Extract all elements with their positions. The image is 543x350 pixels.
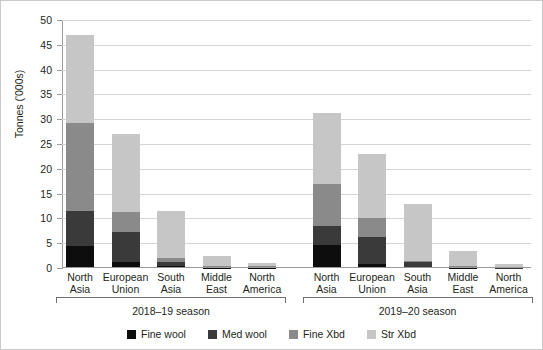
- gridline: [62, 94, 531, 95]
- y-axis-tick: [57, 94, 62, 95]
- y-axis-tick-label: 40: [40, 64, 52, 75]
- season-label: 2019–20 season: [303, 305, 533, 317]
- bar-stack[interactable]: [112, 134, 140, 268]
- legend-item[interactable]: Med wool: [208, 328, 267, 340]
- x-axis-line: [62, 267, 531, 268]
- bar-stack[interactable]: [66, 35, 94, 268]
- bar-stack[interactable]: [157, 211, 185, 268]
- bar-segment[interactable]: [449, 251, 477, 266]
- y-axis-tick: [57, 144, 62, 145]
- category-label-line: America: [232, 284, 292, 296]
- legend-label: Fine wool: [141, 328, 186, 340]
- bar-segment[interactable]: [313, 226, 341, 245]
- bar-segment[interactable]: [358, 154, 386, 218]
- y-axis-tick: [57, 243, 62, 244]
- gridline: [62, 45, 531, 46]
- y-axis-tick: [57, 194, 62, 195]
- bar-stack[interactable]: [449, 251, 477, 268]
- category-label-line: America: [479, 284, 539, 296]
- y-axis-tick-label: 35: [40, 89, 52, 100]
- bar-segment[interactable]: [112, 232, 140, 262]
- figure-border-top: [0, 0, 543, 1]
- chart-legend: Fine woolMed woolFine XbdStr Xbd: [0, 328, 543, 340]
- category-label-line: North: [232, 272, 292, 284]
- y-axis-tick: [57, 20, 62, 21]
- y-axis-tick-label: 5: [46, 238, 52, 249]
- legend-swatch-icon: [289, 330, 298, 339]
- legend-label: Med wool: [222, 328, 267, 340]
- bar-segment[interactable]: [404, 204, 432, 261]
- chart-figure: Tonnes ('000s) 05101520253035404550 Nort…: [0, 0, 543, 350]
- legend-swatch-icon: [127, 330, 136, 339]
- x-axis-category-label: NorthAmerica: [232, 272, 292, 295]
- season-bracket: [56, 297, 286, 303]
- y-axis-tick-label: 45: [40, 40, 52, 51]
- y-axis-tick-label: 20: [40, 164, 52, 175]
- bar-stack[interactable]: [404, 204, 432, 268]
- season-bracket: [303, 297, 533, 303]
- legend-label: Str Xbd: [381, 328, 416, 340]
- bar-segment[interactable]: [248, 263, 276, 266]
- y-axis-tick: [57, 218, 62, 219]
- legend-swatch-icon: [367, 330, 376, 339]
- bar-segment[interactable]: [313, 245, 341, 268]
- bar-segment[interactable]: [112, 134, 140, 212]
- y-axis-tick-label: 15: [40, 188, 52, 199]
- bar-segment[interactable]: [313, 113, 341, 184]
- legend-item[interactable]: Fine Xbd: [289, 328, 345, 340]
- y-axis-tick-label: 25: [40, 139, 52, 150]
- bar-segment[interactable]: [404, 262, 432, 266]
- bar-segment[interactable]: [157, 262, 185, 265]
- bar-segment[interactable]: [358, 218, 386, 237]
- legend-item[interactable]: Str Xbd: [367, 328, 416, 340]
- bar-segment[interactable]: [157, 258, 185, 262]
- y-axis-tick: [57, 169, 62, 170]
- y-axis-tick: [57, 45, 62, 46]
- bar-segment[interactable]: [66, 211, 94, 246]
- x-axis-category-label: NorthAmerica: [479, 272, 539, 295]
- season-label: 2018–19 season: [56, 305, 286, 317]
- y-axis-tick: [57, 119, 62, 120]
- y-axis-tick: [57, 70, 62, 71]
- bar-segment[interactable]: [157, 211, 185, 258]
- y-axis-tick-labels: 05101520253035404550: [0, 0, 52, 350]
- gridline: [62, 20, 531, 21]
- category-label-line: North: [479, 272, 539, 284]
- y-axis-tick-label: 10: [40, 213, 52, 224]
- bar-segment[interactable]: [203, 256, 231, 266]
- y-axis-tick-label: 50: [40, 15, 52, 26]
- bar-segment[interactable]: [358, 237, 386, 264]
- bar-segment[interactable]: [313, 184, 341, 226]
- legend-label: Fine Xbd: [303, 328, 345, 340]
- gridline: [62, 119, 531, 120]
- gridline: [62, 70, 531, 71]
- plot-area: [62, 20, 531, 268]
- bar-segment[interactable]: [66, 35, 94, 123]
- bar-segment[interactable]: [66, 246, 94, 268]
- y-axis-tick: [57, 268, 62, 269]
- bar-segment[interactable]: [404, 261, 432, 262]
- legend-item[interactable]: Fine wool: [127, 328, 186, 340]
- bar-stack[interactable]: [313, 113, 341, 268]
- bar-segment[interactable]: [66, 123, 94, 211]
- y-axis-tick-label: 30: [40, 114, 52, 125]
- legend-swatch-icon: [208, 330, 217, 339]
- bar-stack[interactable]: [358, 154, 386, 268]
- bar-segment[interactable]: [112, 212, 140, 231]
